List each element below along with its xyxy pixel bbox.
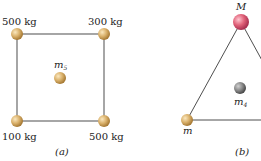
diagram-canvas: 500 kg 300 kg 100 kg 500 kg m5 (a) M m m…: [0, 0, 261, 161]
label-top-left-mass: 500 kg: [2, 16, 37, 27]
mass-ball-M: [233, 14, 249, 30]
center-mass-symbol: m: [54, 59, 63, 70]
triangle-left-edge: [187, 22, 241, 120]
mass-ball-bottom-left: [11, 115, 23, 127]
label-bottom-right-mass: 500 kg: [89, 131, 124, 142]
label-M: M: [235, 1, 247, 12]
caption-a: (a): [55, 146, 69, 157]
label-m4: m4: [234, 96, 247, 108]
caption-b: (b): [235, 146, 249, 157]
label-bottom-left-mass: 100 kg: [2, 131, 37, 142]
mass-ball-m4: [234, 82, 246, 94]
mass-ball-top-left: [11, 28, 23, 40]
m4-symbol: m: [234, 96, 243, 107]
center-mass-subscript: 5: [63, 64, 67, 71]
figure-b: M m m4 (b): [181, 1, 261, 157]
label-m: m: [183, 125, 192, 136]
mass-ball-top-right: [98, 28, 110, 40]
label-center-mass: m5: [54, 59, 67, 71]
figure-a: 500 kg 300 kg 100 kg 500 kg m5 (a): [2, 16, 124, 157]
mass-ball-bottom-right: [98, 115, 110, 127]
mass-ball-center: [54, 72, 66, 84]
m4-subscript: 4: [242, 101, 247, 108]
label-top-right-mass: 300 kg: [88, 16, 123, 27]
